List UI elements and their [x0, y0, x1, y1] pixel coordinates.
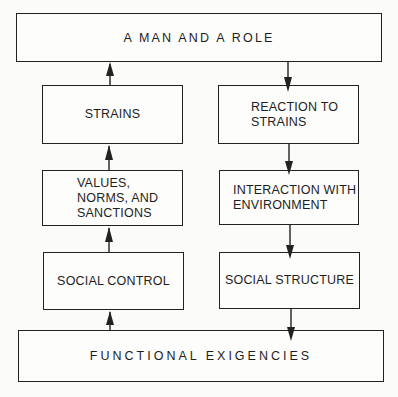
arrowhead-up-icon	[105, 145, 113, 160]
box-label: REACTION TO STRAINS	[251, 100, 338, 130]
box-label: INTERACTION WITH ENVIRONMENT	[233, 183, 356, 213]
box-label: FUNCTIONAL EXIGENCIES	[90, 349, 312, 363]
box-label: VALUES, NORMS, AND SANCTIONS	[77, 176, 158, 221]
box-a-man-and-a-role: A MAN AND A ROLE	[16, 13, 382, 62]
box-reaction-to-strains: REACTION TO STRAINS	[218, 85, 359, 144]
arrowhead-up-icon	[106, 62, 114, 76]
box-values-norms-sanctions: VALUES, NORMS, AND SANCTIONS	[42, 170, 183, 226]
box-social-control: SOCIAL CONTROL	[43, 252, 184, 310]
box-strains: STRAINS	[42, 85, 183, 144]
box-label: A MAN AND A ROLE	[123, 31, 274, 45]
box-functional-exigencies: FUNCTIONAL EXIGENCIES	[18, 330, 384, 382]
box-label: SOCIAL STRUCTURE	[225, 273, 354, 288]
box-label: SOCIAL CONTROL	[57, 274, 170, 289]
box-interaction-with-environment: INTERACTION WITH ENVIRONMENT	[219, 170, 359, 225]
arrowhead-up-icon	[105, 227, 113, 242]
box-social-structure: SOCIAL STRUCTURE	[219, 252, 360, 309]
box-label: STRAINS	[85, 107, 141, 122]
arrowhead-up-icon	[106, 311, 114, 325]
